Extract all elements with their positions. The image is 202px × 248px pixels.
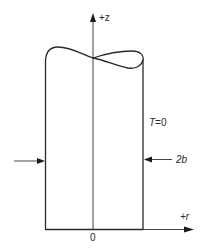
left-width-arrowhead — [37, 158, 45, 164]
cylinder-top-left-curve — [46, 47, 94, 62]
cylinder-outline — [46, 60, 144, 230]
temperature-label: T=0 — [149, 117, 167, 128]
origin-label: 0 — [90, 232, 96, 243]
r-axis-arrowhead — [184, 227, 194, 233]
width-label: 2b — [175, 154, 188, 165]
cylinder-diagram: +z +r 0 T=0 2b — [0, 0, 202, 248]
z-axis-label: +z — [99, 12, 110, 23]
cylinder-top-right-loop — [93, 51, 143, 68]
temperature-value: =0 — [155, 117, 167, 128]
z-axis-arrowhead — [90, 13, 96, 22]
r-axis-label: +r — [180, 211, 190, 222]
right-width-arrowhead — [144, 157, 152, 163]
